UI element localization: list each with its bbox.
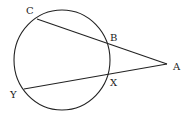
label-c: C xyxy=(26,5,34,16)
secant-ya xyxy=(24,64,167,89)
label-y: Y xyxy=(9,89,17,100)
secant-ca xyxy=(37,19,167,64)
circle xyxy=(14,10,110,110)
geometry-diagram: C B A X Y xyxy=(0,0,190,118)
label-b: B xyxy=(110,32,117,43)
label-x: X xyxy=(110,77,118,88)
label-a: A xyxy=(172,61,181,72)
